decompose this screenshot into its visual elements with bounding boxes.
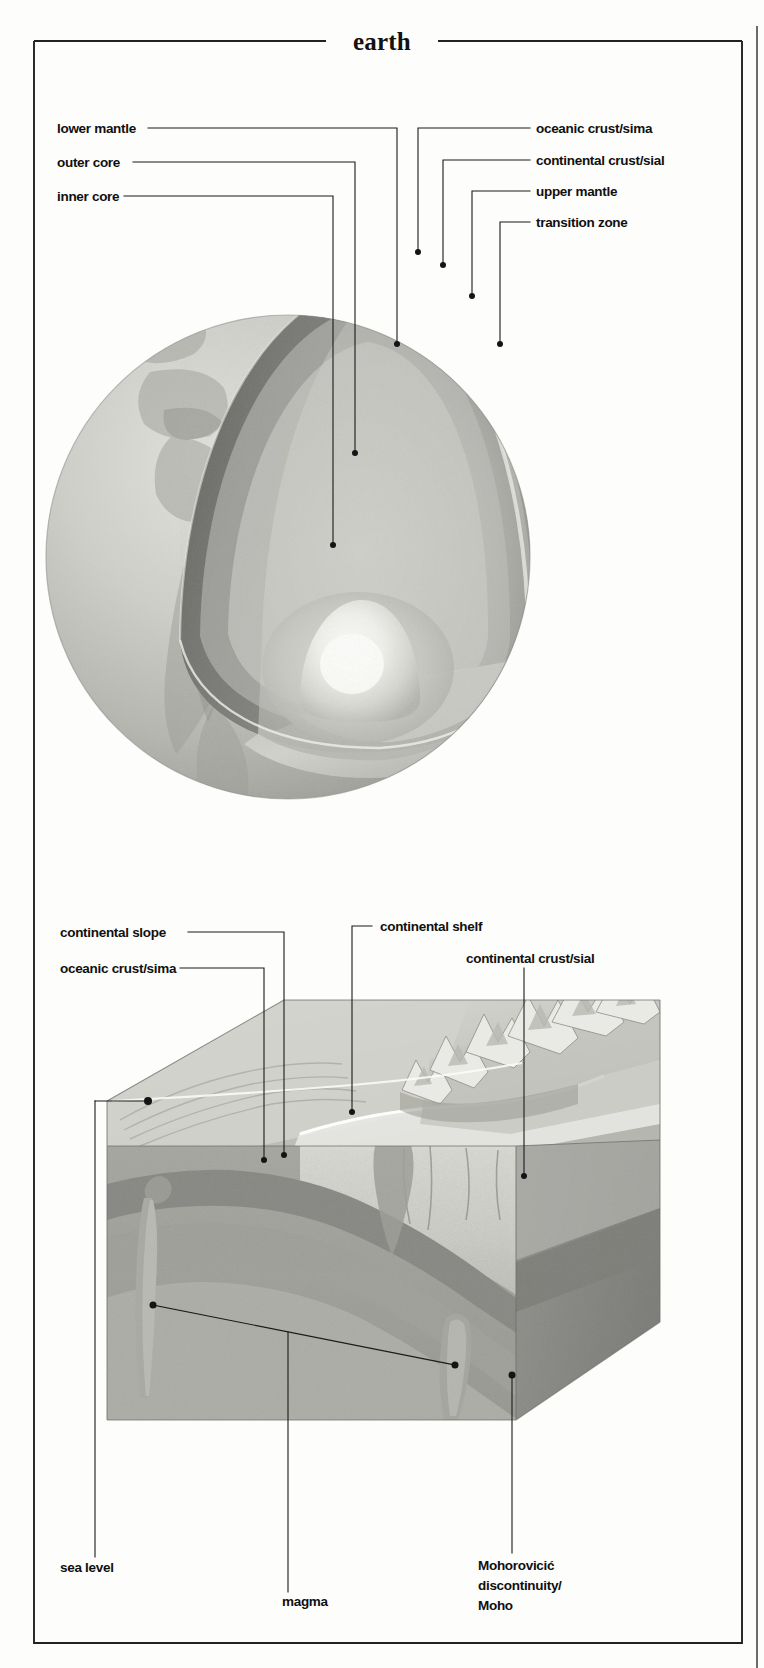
label-oceanic-crust-sima: oceanic crust/sima xyxy=(536,121,653,136)
earth-cutaway-illustration xyxy=(46,276,536,846)
label-upper-mantle: upper mantle xyxy=(536,184,618,199)
label-lower-mantle: lower mantle xyxy=(57,121,137,136)
label-moho-line2: discontinuity/ xyxy=(478,1578,562,1593)
crust-block-illustration xyxy=(100,978,660,1458)
figure-title: earth xyxy=(353,28,411,55)
label-sea-level: sea level xyxy=(60,1560,114,1575)
label-magma: magma xyxy=(282,1594,329,1609)
earth-figure: earth xyxy=(0,0,764,1668)
label-moho-line3: Moho xyxy=(478,1598,513,1613)
label-continental-shelf: continental shelf xyxy=(380,919,483,934)
label-continental-slope: continental slope xyxy=(60,925,167,940)
label-inner-core: inner core xyxy=(57,189,120,204)
label-outer-core: outer core xyxy=(57,155,121,170)
label-transition-zone: transition zone xyxy=(536,215,628,230)
label-oceanic-crust-sima-2: oceanic crust/sima xyxy=(60,961,177,976)
figure-page: earth xyxy=(0,0,764,1668)
label-continental-crust-sial-2: continental crust/sial xyxy=(466,951,594,966)
label-moho-line1: Mohorovicić xyxy=(478,1558,555,1573)
label-continental-crust-sial: continental crust/sial xyxy=(536,153,664,168)
